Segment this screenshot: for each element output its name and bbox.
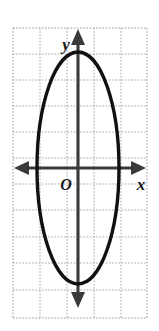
ellipse-figure: y x O — [0, 0, 159, 331]
y-axis-label: y — [60, 35, 70, 54]
coordinate-plane-graphic: y x O — [0, 0, 159, 331]
x-axis-label: x — [136, 175, 146, 194]
origin-label: O — [60, 176, 72, 193]
